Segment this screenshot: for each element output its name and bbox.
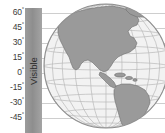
degree-symbol: ° xyxy=(22,66,24,72)
tick-value: 30 xyxy=(13,37,22,47)
degree-symbol: ° xyxy=(22,6,24,12)
tick-value: -45 xyxy=(10,112,22,122)
degree-symbol: ° xyxy=(22,96,24,102)
degree-symbol: ° xyxy=(22,36,24,42)
globe-container xyxy=(42,0,165,133)
latitude-tick-label: -45° xyxy=(0,113,24,122)
latitude-tick-label: 45° xyxy=(0,23,24,32)
degree-symbol: ° xyxy=(22,51,24,57)
visible-band: Visible xyxy=(25,8,42,133)
visible-band-label: Visible xyxy=(29,57,39,85)
degree-symbol: ° xyxy=(22,21,24,27)
latitude-tick-label: -15° xyxy=(0,83,24,92)
degree-symbol: ° xyxy=(22,111,24,117)
latitude-tick-label: 60° xyxy=(0,8,24,17)
degree-symbol: ° xyxy=(22,81,24,87)
globe-graphic xyxy=(42,0,165,133)
latitude-tick-label: -30° xyxy=(0,98,24,107)
tick-value: -30 xyxy=(10,97,22,107)
visible-band-globe-figure: 60°45°30°15°0°-15°-30°-45° Visible xyxy=(0,0,165,133)
tick-value: 15 xyxy=(13,52,22,62)
latitude-tick-label: 15° xyxy=(0,53,24,62)
latitude-tick-label: 0° xyxy=(0,68,24,77)
tick-value: 60 xyxy=(13,7,22,17)
latitude-tick-label: 30° xyxy=(0,38,24,47)
tick-value: -15 xyxy=(10,82,22,92)
tick-value: 45 xyxy=(13,22,22,32)
